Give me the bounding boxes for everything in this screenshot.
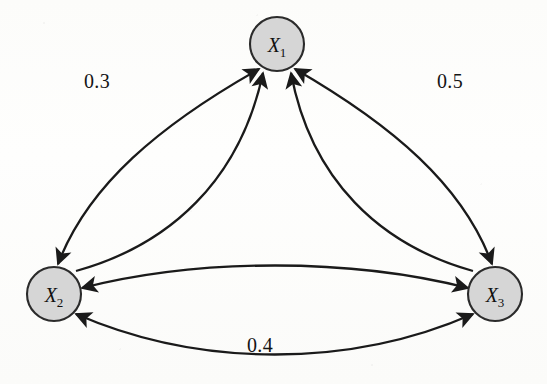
edge-x2-x3-bottom: [76, 314, 473, 355]
weight-label-x1-x3: 0.5: [437, 70, 463, 92]
weight-label-x2-x3: 0.4: [247, 334, 273, 356]
weight-label-x1-x2: 0.3: [84, 70, 110, 92]
edge-x3-x1-inner: [291, 73, 473, 271]
node-x1[interactable]: X1: [250, 17, 304, 71]
figure-canvas: X1 X2 X3 0.3 0.5 0.4: [0, 0, 547, 384]
edge-x2-x3-middle: [82, 266, 468, 289]
node-x2[interactable]: X2: [27, 267, 81, 321]
graph-diagram: X1 X2 X3 0.3 0.5 0.4: [0, 0, 547, 384]
node-x3[interactable]: X3: [468, 267, 522, 321]
edge-x2-x1-inner: [76, 73, 263, 271]
